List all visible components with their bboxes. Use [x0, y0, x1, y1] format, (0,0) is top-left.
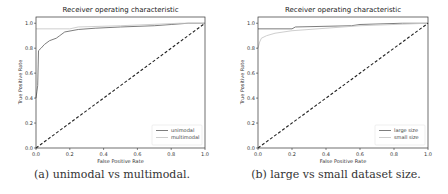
y-tick-label: 0.8	[25, 45, 33, 51]
legend-label: small size	[394, 134, 419, 140]
y-tick-label: 0.4	[247, 95, 255, 101]
y-tick-label: 1.0	[25, 20, 33, 26]
y-axis-label: True Positive Rate	[239, 60, 245, 106]
roc-chart-b: Receiver operating characteristic 0.00.2…	[224, 0, 448, 194]
x-tick-label: 1.0	[201, 151, 209, 157]
y-tick-label: 0.0	[25, 145, 33, 151]
x-tick-label: 0.6	[356, 151, 364, 157]
y-tick-label: 0.2	[25, 120, 33, 126]
x-axis-label: False Positive Rate	[97, 158, 143, 164]
series-unimodal	[36, 23, 205, 98]
roc-figure-unimodal-vs-multimodal: Receiver operating characteristic 0.00.2…	[0, 0, 224, 194]
x-tick-label: 0.8	[390, 151, 398, 157]
y-tick-label: 0.4	[25, 95, 33, 101]
x-tick-label: 0.6	[133, 151, 141, 157]
series-small-size	[258, 23, 428, 48]
x-tick-label: 0.0	[32, 151, 40, 157]
x-tick-label: 0.2	[66, 151, 74, 157]
figure-caption: (a) unimodal vs multimodal.	[0, 168, 224, 181]
x-tick-label: 1.0	[424, 151, 432, 157]
x-tick-label: 0.2	[288, 151, 296, 157]
legend: large sizesmall size	[375, 125, 425, 145]
y-tick-label: 0.6	[247, 70, 255, 76]
y-axis-label: True Positive Rate	[17, 60, 23, 106]
y-tick-label: 0.2	[247, 120, 255, 126]
y-tick-label: 1.0	[247, 20, 255, 26]
legend-label: multimodal	[171, 134, 199, 140]
legend-label: unimodal	[171, 127, 194, 133]
x-tick-label: 0.4	[100, 151, 108, 157]
x-tick-label: 0.4	[322, 151, 330, 157]
figure-caption: (b) large vs small dataset size.	[224, 168, 448, 181]
chart-title: Receiver operating characteristic	[62, 6, 178, 14]
x-axis-label: False Positive Rate	[320, 158, 366, 164]
legend: unimodalmultimodal	[152, 125, 202, 145]
x-tick-label: 0.0	[254, 151, 262, 157]
roc-chart-a: Receiver operating characteristic 0.00.2…	[0, 0, 224, 194]
chart-title: Receiver operating characteristic	[285, 6, 401, 14]
x-tick-label: 0.8	[167, 151, 175, 157]
y-tick-label: 0.8	[247, 45, 255, 51]
roc-figure-large-vs-small-dataset: Receiver operating characteristic 0.00.2…	[224, 0, 448, 194]
y-tick-label: 0.6	[25, 70, 33, 76]
legend-label: large size	[394, 127, 418, 134]
y-tick-label: 0.0	[247, 145, 255, 151]
